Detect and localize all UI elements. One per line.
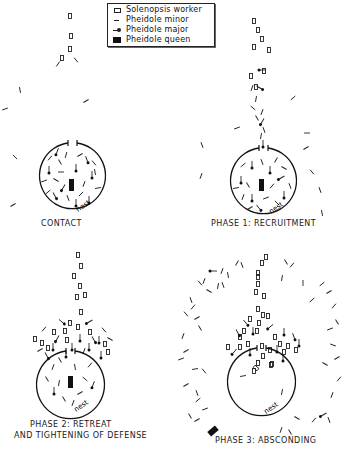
legend: Solenopsis worker Pheidole minor Pheidol… [107, 3, 215, 47]
svg-text:nest: nest [263, 400, 280, 415]
panel-contact: nest [2, 14, 105, 214]
caption-phase2-line1: PHASE 2: RETREAT [30, 420, 112, 429]
legend-item-pheidole-queen: Pheidole queen [112, 35, 210, 45]
queen-absconding [207, 425, 219, 436]
queen [68, 376, 73, 388]
legend-item-pheidole-major: Pheidole major [112, 25, 210, 35]
nest-circle [40, 143, 106, 209]
caption-phase3: PHASE 3: ABSCONDING [215, 436, 316, 445]
panel-phase3: nest [178, 255, 341, 437]
svg-text:nest: nest [73, 398, 90, 413]
dash-icon [112, 16, 122, 24]
dash-dot-icon [112, 26, 122, 34]
open-rectangle-icon [112, 6, 122, 14]
legend-item-solenopsis-worker: Solenopsis worker [112, 5, 210, 15]
caption-phase1: PHASE 1: RECRUITMENT [211, 219, 316, 228]
filled-rectangle-icon [112, 36, 122, 44]
legend-item-pheidole-minor: Pheidole minor [112, 15, 210, 25]
queen [69, 179, 74, 191]
panel-phase1: nest [200, 19, 323, 216]
queen [259, 179, 264, 191]
caption-phase2-line2: AND TIGHTENING OF DEFENSE [14, 431, 147, 440]
caption-contact: CONTACT [41, 219, 82, 228]
panel-phase2: nest [34, 253, 113, 419]
svg-text:nest: nest [268, 200, 285, 215]
